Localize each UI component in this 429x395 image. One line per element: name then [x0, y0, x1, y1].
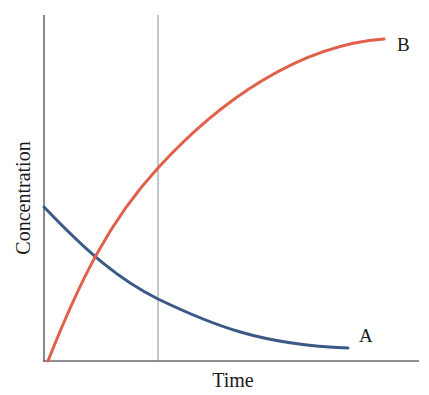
x-axis-title: Time: [212, 369, 254, 391]
series-b-label: B: [397, 34, 410, 55]
series-a-label: A: [359, 325, 373, 346]
chart: B A Time Concentration: [0, 0, 429, 395]
series-a-line: [44, 207, 348, 348]
series-b-line: [48, 39, 384, 361]
y-axis-title: Concentration: [12, 141, 34, 254]
